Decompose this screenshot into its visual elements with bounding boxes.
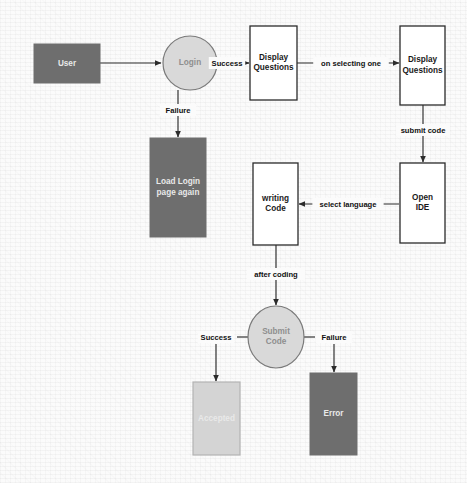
node-label-text: Login [179, 58, 201, 67]
node-label-text: Submit [262, 327, 290, 336]
edge-label-submit-code-to-error: Failure [316, 331, 352, 343]
edge-label-text: after coding [254, 270, 298, 279]
node-load-login-page-again[interactable]: Load Loginpage again [150, 138, 206, 237]
edge-label-login-to-display-questions-1: Success [209, 57, 245, 69]
node-label-text: Open [412, 193, 433, 202]
node-label-text: Questions [402, 66, 442, 75]
node-accepted[interactable]: Accepted [193, 382, 240, 455]
edge-label-text: Failure [322, 333, 347, 342]
node-label-text: Code [265, 204, 286, 213]
edge-label-display-questions-1-to-display-questions-2: on selecting one [313, 57, 389, 69]
edge-label-text: Failure [166, 106, 191, 115]
node-label-text: Display [259, 53, 289, 62]
node-label-text: Load Login [156, 177, 200, 186]
node-user[interactable]: User [34, 44, 100, 83]
edge-label-text: Success [201, 333, 232, 342]
node-label-text: writing [261, 194, 289, 203]
node-submit-code[interactable]: SubmitCode [248, 306, 304, 368]
node-error[interactable]: Error [310, 373, 357, 455]
flowchart-svg: UserLoginDisplayQuestionsDisplayQuestion… [0, 0, 467, 483]
node-label-text: IDE [416, 203, 430, 212]
edge-label-open-ide-to-writing-code: select language [312, 198, 383, 210]
node-open-ide[interactable]: OpenIDE [400, 163, 445, 243]
edge-label-display-questions-2-to-open-ide: submit code [396, 124, 450, 136]
node-label-text: page again [157, 188, 200, 197]
node-label-text: Error [323, 409, 344, 418]
node-label-text: User [58, 59, 77, 68]
node-writing-code[interactable]: writingCode [253, 163, 298, 245]
nodes-layer: UserLoginDisplayQuestionsDisplayQuestion… [34, 26, 445, 455]
edge-label-text: select language [320, 200, 377, 209]
edge-label-login-to-load-login-page-again: Failure [160, 104, 196, 116]
node-label-text: Code [266, 337, 287, 346]
flowchart-canvas: UserLoginDisplayQuestionsDisplayQuestion… [0, 0, 467, 483]
node-display-questions-2[interactable]: DisplayQuestions [400, 26, 445, 105]
node-label-text: Display [408, 55, 438, 64]
edge-submit-code-to-accepted [216, 337, 248, 381]
node-display-questions-1[interactable]: DisplayQuestions [250, 26, 297, 100]
edge-label-text: Success [212, 59, 243, 68]
node-label-text: Accepted [198, 414, 235, 423]
node-label-text: Questions [253, 63, 293, 72]
edge-label-text: on selecting one [321, 59, 381, 68]
edge-label-text: submit code [401, 126, 446, 135]
edge-label-writing-code-to-submit-code: after coding [247, 268, 305, 280]
edge-label-submit-code-to-accepted: Success [198, 331, 234, 343]
